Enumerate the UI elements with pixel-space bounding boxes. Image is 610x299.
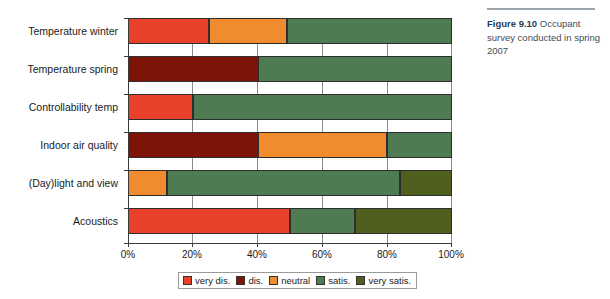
legend-swatch-icon xyxy=(356,276,365,285)
caption-figure-number: Figure 9.10 xyxy=(487,18,537,29)
x-tick-mark xyxy=(257,243,258,247)
y-axis-line xyxy=(128,18,129,244)
x-axis-line xyxy=(128,243,452,244)
plot-area xyxy=(128,18,452,243)
chart-legend: very dis. dis. neutral satis. very satis… xyxy=(178,272,417,289)
x-tick-label: 0% xyxy=(121,249,135,260)
bar-segment[interactable] xyxy=(400,170,452,196)
legend-swatch-icon xyxy=(269,276,278,285)
category-axis: Temperature winter Temperature spring Co… xyxy=(0,0,124,299)
bar-segment[interactable] xyxy=(258,56,452,82)
category-label: Temperature winter xyxy=(28,25,118,37)
y-tick-mark xyxy=(124,243,128,244)
chart-panel: Temperature winter Temperature spring Co… xyxy=(0,0,462,299)
bar-segment[interactable] xyxy=(167,170,400,196)
x-tick-label: 60% xyxy=(312,249,332,260)
category-label: Temperature spring xyxy=(28,63,118,75)
y-tick-mark xyxy=(124,56,128,57)
x-tick-mark xyxy=(322,243,323,247)
legend-label: neutral xyxy=(281,275,310,286)
x-tick-label: 80% xyxy=(377,249,397,260)
bar-segment[interactable] xyxy=(287,18,452,44)
legend-swatch-icon xyxy=(236,276,245,285)
bar-row[interactable] xyxy=(128,18,452,44)
y-tick-mark xyxy=(124,132,128,133)
figure-caption: Figure 9.10 Occupant survey conducted in… xyxy=(487,8,603,58)
legend-item-dis[interactable]: dis. xyxy=(236,275,263,286)
bar-segment[interactable] xyxy=(128,132,258,158)
figure-container: Temperature winter Temperature spring Co… xyxy=(0,0,610,299)
bar-row[interactable] xyxy=(128,132,452,158)
legend-swatch-icon xyxy=(183,276,192,285)
bar-segment[interactable] xyxy=(387,132,452,158)
bar-segment[interactable] xyxy=(128,170,167,196)
bar-segment[interactable] xyxy=(290,208,355,234)
x-tick-mark xyxy=(451,243,452,247)
x-tick-mark xyxy=(387,243,388,247)
x-tick-mark xyxy=(128,243,129,247)
y-tick-mark xyxy=(124,170,128,171)
category-label: Controllability temp xyxy=(29,101,118,113)
bar-segment[interactable] xyxy=(128,94,193,120)
legend-item-satis[interactable]: satis. xyxy=(316,275,350,286)
bar-segment[interactable] xyxy=(128,18,209,44)
legend-label: very dis. xyxy=(195,275,230,286)
legend-label: satis. xyxy=(328,275,350,286)
bar-segment[interactable] xyxy=(128,208,290,234)
bar-segment[interactable] xyxy=(128,56,258,82)
caption-text: Figure 9.10 Occupant survey conducted in… xyxy=(487,17,603,58)
y-tick-mark xyxy=(124,94,128,95)
x-tick-mark xyxy=(192,243,193,247)
legend-label: very satis. xyxy=(368,275,411,286)
y-tick-mark xyxy=(124,18,128,19)
x-tick-label: 20% xyxy=(182,249,202,260)
bar-segment[interactable] xyxy=(193,94,452,120)
category-label: Acoustics xyxy=(73,215,118,227)
legend-swatch-icon xyxy=(316,276,325,285)
legend-item-very-dis[interactable]: very dis. xyxy=(183,275,230,286)
y-tick-mark xyxy=(124,208,128,209)
x-tick-label: 100% xyxy=(438,249,464,260)
category-label: Indoor air quality xyxy=(40,139,118,151)
caption-rule xyxy=(487,8,595,10)
legend-item-neutral[interactable]: neutral xyxy=(269,275,310,286)
legend-item-very-satis[interactable]: very satis. xyxy=(356,275,411,286)
bar-row[interactable] xyxy=(128,56,452,82)
bar-segment[interactable] xyxy=(258,132,388,158)
bar-segment[interactable] xyxy=(209,18,287,44)
x-tick-label: 40% xyxy=(247,249,267,260)
legend-label: dis. xyxy=(248,275,263,286)
bar-row[interactable] xyxy=(128,170,452,196)
bar-segment[interactable] xyxy=(355,208,452,234)
category-label: (Day)light and view xyxy=(29,177,118,189)
bar-row[interactable] xyxy=(128,94,452,120)
bar-row[interactable] xyxy=(128,208,452,234)
